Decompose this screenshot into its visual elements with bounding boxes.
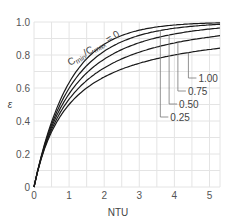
x-tick: 1: [66, 190, 72, 201]
cr-label: 0.50: [179, 99, 199, 110]
x-tick: 2: [101, 190, 107, 201]
x-axis-label: NTU: [108, 207, 129, 218]
effectiveness-ntu-chart: 1.000.750.500.25 01234500.20.40.60.81.0 …: [0, 0, 229, 222]
y-axis-label: ε: [8, 99, 13, 110]
x-tick: 3: [137, 190, 143, 201]
x-tick: 5: [207, 190, 213, 201]
y-tick: 0.4: [16, 116, 30, 127]
y-tick: 0.8: [16, 50, 30, 61]
cr-label: 0.75: [188, 86, 208, 97]
cr-label: 1.00: [198, 73, 218, 84]
y-tick: 0.2: [16, 149, 30, 160]
x-tick: 4: [172, 190, 178, 201]
y-tick: 0: [24, 182, 30, 193]
x-tick: 0: [31, 190, 37, 201]
y-tick: 0.6: [16, 83, 30, 94]
y-tick: 1.0: [16, 17, 30, 28]
cr-label: 0.25: [170, 112, 190, 123]
